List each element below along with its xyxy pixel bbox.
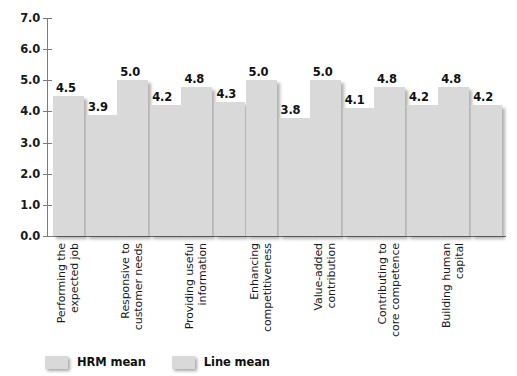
category-label-line: Contributing to <box>376 243 389 347</box>
y-axis-tick-label: 6.0 <box>6 42 40 56</box>
category-label-line: core competence <box>389 243 402 347</box>
chart-legend: HRM mean Line mean <box>45 352 296 372</box>
legend-swatch-icon <box>172 356 195 369</box>
category-label-line: contribution <box>325 243 338 347</box>
bar <box>86 115 117 236</box>
y-axis-tick <box>43 111 52 112</box>
y-axis-tick-label: 7.0 <box>6 11 40 25</box>
bar <box>279 118 310 236</box>
bar-value-label: 5.0 <box>249 65 269 79</box>
legend-label: Line mean <box>204 355 270 369</box>
y-axis-tick <box>43 143 52 144</box>
x-axis-category-label: Responsive tocustomer needs <box>119 243 135 347</box>
bar-chart: 7.06.05.04.03.02.01.00.0 4.53.95.04.24.8… <box>0 0 517 376</box>
bar <box>407 105 438 236</box>
x-axis-category-label: Value-addedcontribution <box>312 243 328 347</box>
y-axis-tick-label: 3.0 <box>6 136 40 150</box>
category-label-line: Responsive to <box>119 243 132 347</box>
category-label-line: Building human <box>440 243 453 347</box>
y-axis-tick-label: 5.0 <box>6 73 40 87</box>
x-axis-category-label: Performing theexpected job <box>55 243 71 347</box>
y-axis-tick-label: 4.0 <box>6 104 40 118</box>
bar-value-label: 4.3 <box>216 87 236 101</box>
x-axis-line <box>47 236 506 237</box>
bar-value-label: 4.1 <box>345 93 365 107</box>
bar <box>117 80 148 236</box>
bar-value-label: 4.2 <box>473 90 493 104</box>
category-label-line: information <box>196 243 209 347</box>
bar-value-label: 4.8 <box>441 72 461 86</box>
bar-value-label: 4.5 <box>56 81 76 95</box>
bar-value-label: 4.8 <box>377 72 397 86</box>
category-label-line: competitiveness <box>261 243 274 347</box>
x-axis-category-label: Enhancingcompetitiveness <box>248 243 264 347</box>
bar-value-label: 4.2 <box>409 90 429 104</box>
bar <box>150 105 181 236</box>
y-axis-tick <box>43 49 52 50</box>
x-axis-category-label: Building humancapital <box>440 243 456 347</box>
bar-value-label: 5.0 <box>313 65 333 79</box>
category-label-line: Value-added <box>312 243 325 347</box>
y-axis-tick <box>43 205 52 206</box>
bar <box>181 87 212 236</box>
category-label-line: Enhancing <box>248 243 261 347</box>
bar <box>246 80 277 236</box>
bar <box>343 108 374 236</box>
y-axis-tick-label: 2.0 <box>6 167 40 181</box>
category-label-line: capital <box>453 243 466 347</box>
bar <box>471 105 502 236</box>
bar-value-label: 4.2 <box>152 90 172 104</box>
legend-swatch-icon <box>45 356 68 369</box>
y-axis-tick <box>43 80 52 81</box>
category-label-line: expected job <box>68 243 81 347</box>
category-label-line: Providing useful <box>183 243 196 347</box>
x-axis-category-label: Contributing tocore competence <box>376 243 392 347</box>
legend-label: HRM mean <box>77 355 146 369</box>
bar-value-label: 5.0 <box>120 65 140 79</box>
y-axis-tick <box>43 174 52 175</box>
bar <box>310 80 341 236</box>
bar <box>438 87 469 236</box>
legend-item-hrm-mean: HRM mean <box>45 355 146 369</box>
x-axis-category-label: Providing usefulinformation <box>183 243 199 347</box>
category-label-line: customer needs <box>132 243 145 347</box>
bar <box>374 87 405 236</box>
bar-value-label: 4.8 <box>184 72 204 86</box>
bar-value-label: 3.8 <box>281 103 301 117</box>
y-axis-tick <box>43 18 52 19</box>
category-label-line: Performing the <box>55 243 68 347</box>
bar-value-label: 3.9 <box>88 100 108 114</box>
bar <box>214 102 245 236</box>
bar <box>53 96 84 236</box>
y-axis-tick-label: 1.0 <box>6 198 40 212</box>
legend-item-line-mean: Line mean <box>172 355 270 369</box>
y-axis-tick-label: 0.0 <box>6 229 40 243</box>
